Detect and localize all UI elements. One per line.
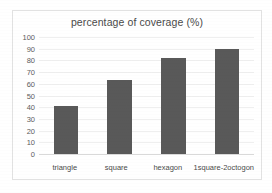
bar-slot (147, 37, 201, 154)
y-axis-tick-label: 70 (27, 68, 35, 77)
x-tick-slot: triangle (39, 156, 91, 172)
x-axis-tick-labels: trianglesquarehexagon1square-2octogon (39, 156, 254, 172)
y-axis-tick-label: 40 (27, 103, 35, 112)
x-tick-slot: square (91, 156, 143, 172)
bar-1square-2octogon[interactable] (215, 49, 240, 154)
y-axis-tick-label: 20 (27, 126, 35, 135)
y-axis-tick-labels: 0102030405060708090100 (13, 37, 37, 154)
bar-slot (93, 37, 147, 154)
bar-square[interactable] (107, 80, 132, 154)
y-axis-tick-label: 100 (22, 33, 35, 42)
x-axis-tick-label: triangle (52, 163, 77, 172)
bar-triangle[interactable] (54, 106, 79, 154)
y-axis-tick-label: 90 (27, 44, 35, 53)
y-axis-tick-label: 10 (27, 138, 35, 147)
chart-title: percentage of coverage (%) (13, 16, 261, 28)
y-axis-tick-label: 50 (27, 91, 35, 100)
chart-container: percentage of coverage (%) 0102030405060… (12, 10, 262, 180)
y-axis-tick-label: 30 (27, 114, 35, 123)
x-tick-slot: 1square-2octogon (194, 156, 254, 172)
y-axis-tick-label: 80 (27, 56, 35, 65)
x-axis-tick-label: hexagon (153, 163, 182, 172)
x-axis-tick-label: square (105, 163, 128, 172)
x-axis-tick-label: 1square-2octogon (194, 163, 254, 172)
bar-slot (39, 37, 93, 154)
y-axis-tick-label: 0 (31, 150, 35, 159)
gridline (39, 154, 254, 155)
bar-slot (200, 37, 254, 154)
plot-area (39, 37, 254, 154)
bar-hexagon[interactable] (161, 58, 186, 154)
x-tick-slot: hexagon (142, 156, 194, 172)
y-axis-tick-label: 60 (27, 79, 35, 88)
bar-series (39, 37, 254, 154)
